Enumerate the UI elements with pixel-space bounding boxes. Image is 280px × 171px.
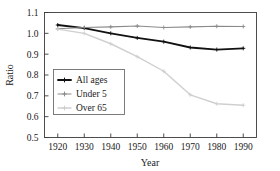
data-point-marker bbox=[56, 27, 60, 31]
data-point-marker bbox=[241, 24, 245, 28]
x-axis-title: Year bbox=[141, 157, 160, 168]
series-line bbox=[58, 25, 244, 50]
y-tick-label: 1.0 bbox=[27, 29, 39, 39]
chart-figure: 0.50.60.70.80.91.01.1 192019301940195019… bbox=[0, 0, 280, 171]
x-tick-label: 1950 bbox=[128, 142, 147, 152]
legend-label: Over 65 bbox=[76, 103, 107, 113]
legend-label: Under 5 bbox=[76, 89, 107, 99]
data-point-marker bbox=[109, 31, 113, 35]
y-axis-title: Ratio bbox=[4, 64, 15, 86]
y-tick-label: 0.6 bbox=[27, 112, 39, 122]
data-point-marker bbox=[162, 40, 166, 44]
data-point-marker bbox=[135, 36, 139, 40]
data-point-marker bbox=[241, 46, 245, 50]
data-point-marker bbox=[135, 24, 139, 28]
x-tick-label: 1970 bbox=[181, 142, 200, 152]
x-tick-label: 1990 bbox=[234, 142, 253, 152]
data-point-marker bbox=[215, 24, 219, 28]
y-axis-tick-labels: 0.50.60.70.80.91.01.1 bbox=[27, 8, 39, 143]
legend-label: All ages bbox=[76, 75, 108, 85]
x-tick-label: 1940 bbox=[101, 142, 120, 152]
x-axis-ticks bbox=[58, 134, 244, 138]
chart-legend: All agesUnder 5Over 65 bbox=[54, 70, 125, 115]
y-tick-label: 0.5 bbox=[27, 133, 39, 143]
data-point-marker bbox=[188, 25, 192, 29]
data-point-marker bbox=[56, 23, 60, 27]
data-point-marker bbox=[109, 25, 113, 29]
y-tick-label: 0.9 bbox=[27, 50, 39, 60]
x-tick-label: 1920 bbox=[48, 142, 67, 152]
x-tick-label: 1930 bbox=[75, 142, 94, 152]
ratio-vs-year-line-chart: 0.50.60.70.80.91.01.1 192019301940195019… bbox=[0, 0, 280, 171]
x-tick-label: 1960 bbox=[154, 142, 173, 152]
y-axis-ticks bbox=[45, 13, 49, 138]
data-point-marker bbox=[215, 102, 219, 106]
x-tick-label: 1980 bbox=[207, 142, 226, 152]
y-tick-label: 0.7 bbox=[27, 91, 39, 101]
data-point-marker bbox=[215, 48, 219, 52]
y-tick-label: 1.1 bbox=[27, 8, 39, 18]
data-point-marker bbox=[82, 31, 86, 35]
y-tick-label: 0.8 bbox=[27, 70, 39, 80]
data-point-marker bbox=[188, 46, 192, 50]
data-point-marker bbox=[162, 26, 166, 30]
data-point-marker bbox=[241, 103, 245, 107]
x-axis-tick-labels: 19201930194019501960197019801990 bbox=[48, 142, 253, 152]
